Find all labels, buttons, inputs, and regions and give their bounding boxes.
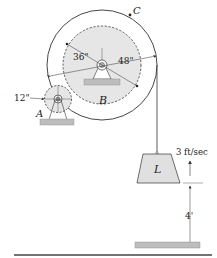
label-velocity: 3 ft/sec <box>176 147 208 157</box>
label-radius-b: 36" <box>73 52 89 62</box>
label-b: B <box>98 94 107 107</box>
ground-support-a <box>40 119 74 125</box>
label-radius-c: 48" <box>118 56 134 66</box>
radius-a-leader <box>30 98 44 99</box>
label-a: A <box>35 108 43 119</box>
label-l: L <box>153 163 161 176</box>
ground-support-b <box>84 79 120 85</box>
ground-plate <box>135 242 200 248</box>
label-c: C <box>133 5 141 16</box>
label-height: 4' <box>185 211 193 221</box>
label-radius-a: 12" <box>14 93 30 103</box>
pulley-gear-diagram: C 36" 48" B 12" A L 3 ft/sec 4' <box>0 0 217 258</box>
point-c-marker <box>129 14 132 17</box>
gear-a <box>45 86 72 121</box>
